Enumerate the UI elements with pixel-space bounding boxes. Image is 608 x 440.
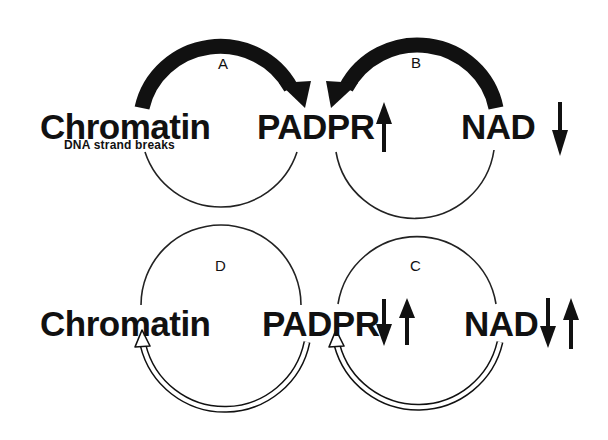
bottom-chromatin-label: Chromatin [40,306,211,341]
bottom-padpr-label: PADPR [262,306,379,341]
nad-down-icon [540,298,556,348]
diagram-graphics [0,0,608,440]
cycle-a-return-arc [145,152,297,207]
diagram-canvas: A B Chromatin DNA strand breaks PADPR NA… [0,0,608,440]
padpr-up-icon [399,298,415,345]
padpr-increase-icon [376,102,392,152]
bottom-nad-label: NAD [464,306,538,341]
dna-strand-breaks-label: DNA strand breaks [64,139,175,151]
pathway-c-label: C [410,258,421,273]
top-nad-label: NAD [461,109,535,144]
nad-decrease-icon [552,102,568,156]
top-padpr-label: PADPR [257,109,374,144]
cycle-b-return-arc [336,150,494,218]
pathway-d-label: D [215,258,226,273]
pathway-b-label: B [411,55,421,70]
nad-up-icon [563,298,579,349]
pathway-a-label: A [218,56,228,71]
